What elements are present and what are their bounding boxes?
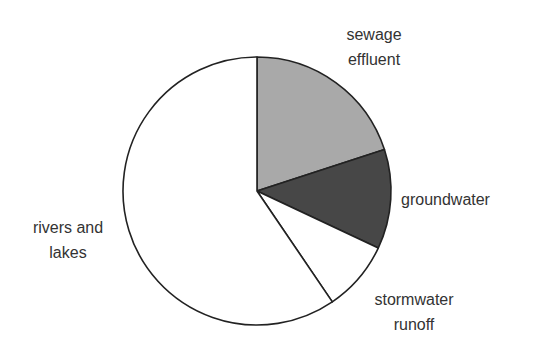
label-line: sewage: [346, 26, 401, 43]
label-stormwater-runoff: stormwaterrunoff: [374, 291, 454, 333]
label-line: effluent: [348, 51, 401, 68]
label-rivers-and-lakes: rivers andlakes: [33, 219, 103, 261]
label-line: runoff: [394, 316, 435, 333]
label-line: groundwater: [401, 191, 491, 208]
pie-slices: [123, 57, 391, 325]
label-groundwater: groundwater: [401, 191, 491, 208]
label-line: rivers and: [33, 219, 103, 236]
pie-chart: sewageeffluentgroundwaterstormwaterrunof…: [0, 0, 535, 363]
label-sewage-effluent: sewageeffluent: [346, 26, 401, 68]
label-line: lakes: [49, 244, 86, 261]
label-line: stormwater: [374, 291, 454, 308]
